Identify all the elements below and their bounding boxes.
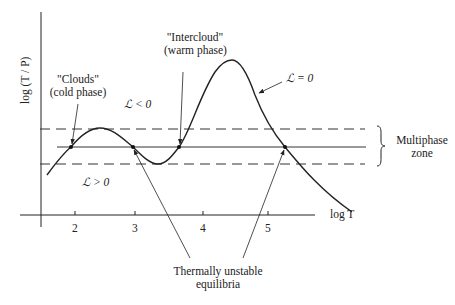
phase-diagram [0,0,455,305]
x-tick-3: 3 [132,222,138,234]
intercloud-label-line1: "Intercloud" [164,31,226,44]
multiphase-label-line1: Multiphase [392,134,452,147]
x-axis-label: log T [330,208,354,221]
multiphase-zone-label: Multiphase zone [392,134,452,160]
intercloud-label: "Intercloud" (warm phase) [164,31,226,57]
y-axis-label: log (T / P) [19,57,31,104]
intercloud-arrow [180,72,183,144]
x-axis-ticks [75,211,268,215]
intercloud-label-line2: (warm phase) [164,44,226,57]
multiphase-brace [377,126,385,166]
unstable-point-1 [131,145,135,149]
clouds-label: "Clouds" (cold phase) [46,73,110,99]
x-axis-label-text: log T [330,208,354,220]
clouds-label-line1: "Clouds" [46,73,110,86]
x-tick-2: 2 [72,222,78,234]
unstable-arrow-1 [134,150,190,258]
clouds-label-line2: (cold phase) [46,86,110,99]
x-tick-4: 4 [200,222,206,234]
unstable-equilibria-label: Thermally unstable equilibria [168,265,268,291]
l-less-zero-label: ℒ < 0 [124,98,151,111]
unstable-label-line2: equilibria [168,278,268,291]
l-greater-zero-label: ℒ > 0 [82,176,109,189]
unstable-label-line1: Thermally unstable [168,265,268,278]
intercloud-point [177,145,181,149]
l-zero-arrow [259,82,282,93]
l-equals-zero-label: ℒ = 0 [286,72,313,85]
clouds-point [69,145,73,149]
unstable-arrow-2 [243,150,284,258]
clouds-arrow [72,104,78,144]
unstable-point-2 [283,145,287,149]
multiphase-label-line2: zone [392,147,452,160]
x-tick-5: 5 [265,222,271,234]
